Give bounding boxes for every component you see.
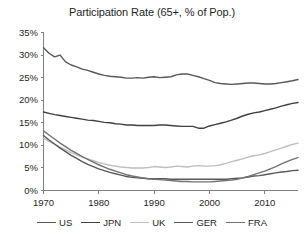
legend-swatch-jpn-icon (81, 222, 100, 223)
legend-swatch-uk-icon (130, 222, 149, 223)
chart-series-lines (44, 48, 299, 182)
legend-label: GER (196, 217, 217, 228)
legend-label: FRA (248, 217, 267, 228)
legend-label: UK (152, 217, 165, 228)
legend-swatch-fra-icon (226, 222, 245, 223)
legend-swatch-ger-icon (174, 222, 193, 223)
legend-label: US (59, 217, 72, 228)
chart-legend: USJPNUKGERFRA (0, 211, 304, 233)
legend-item-fra[interactable]: FRA (226, 217, 267, 228)
chart-container: Participation Rate (65+, % of Pop.) 0%5%… (0, 0, 304, 235)
legend-item-jpn[interactable]: JPN (81, 217, 121, 228)
legend-item-us[interactable]: US (37, 217, 72, 228)
legend-item-ger[interactable]: GER (174, 217, 217, 228)
legend-swatch-us-icon (37, 222, 56, 223)
series-line-jpn (44, 102, 299, 128)
series-line-uk (44, 138, 299, 168)
series-line-us (44, 48, 299, 85)
axis-tick-marks (41, 33, 265, 194)
series-line-fra (44, 131, 299, 182)
legend-item-uk[interactable]: UK (130, 217, 165, 228)
legend-label: JPN (103, 217, 121, 228)
chart-plot-area (0, 0, 304, 235)
